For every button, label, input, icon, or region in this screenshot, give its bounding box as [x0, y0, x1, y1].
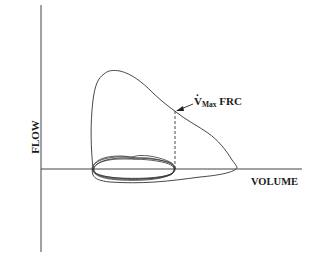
y-axis-label: FLOW — [29, 117, 41, 157]
tidal-loops — [92, 155, 175, 180]
flow-volume-plot — [0, 0, 322, 262]
vmax-symbol: V — [194, 95, 202, 107]
vmax-subscript: Max — [202, 100, 217, 109]
x-axis-label: VOLUME — [251, 176, 298, 187]
forced-flow-volume-curve — [91, 70, 237, 182]
vmax-frc-annotation: VMax FRC — [194, 95, 242, 109]
vmax-suffix: FRC — [217, 95, 242, 107]
arrow-icon — [176, 104, 193, 111]
